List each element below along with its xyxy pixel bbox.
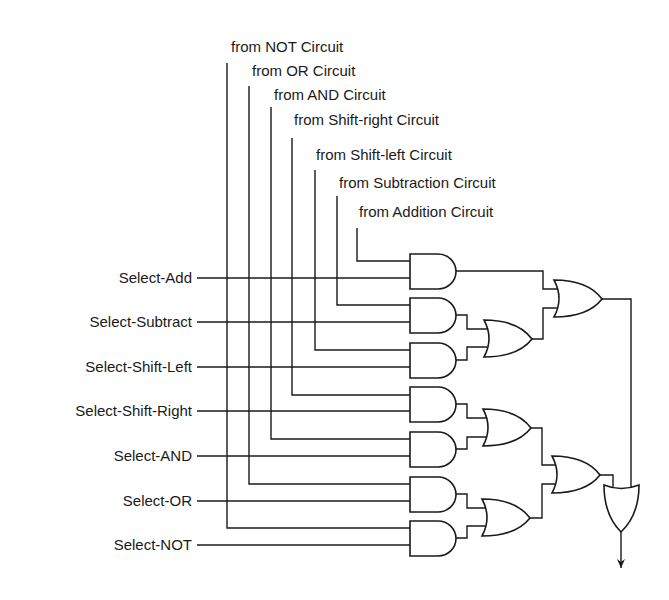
select-label-shift-left: Select-Shift-Left	[85, 358, 193, 375]
select-labels: Select-Add Select-Subtract Select-Shift-…	[75, 269, 193, 553]
or-gate-shr-and	[483, 409, 531, 446]
wire-and-shift-left-out	[456, 347, 487, 360]
mux-circuit-diagram: from NOT Circuit from OR Circuit from AN…	[0, 0, 669, 600]
source-label-or: from OR Circuit	[252, 62, 356, 79]
or-gate-top	[554, 280, 602, 317]
wire-and-subtract-out	[456, 315, 487, 329]
select-label-or: Select-OR	[123, 492, 192, 509]
and-gate-and	[410, 432, 456, 467]
and-gate-or	[410, 477, 456, 512]
source-label-shift-right: from Shift-right Circuit	[294, 111, 440, 128]
and-gate-shift-left	[410, 343, 456, 378]
or-gate-sub-shl	[484, 320, 532, 357]
select-label-not: Select-NOT	[114, 536, 192, 553]
and-gates	[410, 254, 456, 556]
wire-from-not	[227, 63, 410, 528]
wire-or-shr-and-out	[531, 428, 555, 465]
select-label-subtract: Select-Subtract	[89, 313, 192, 330]
source-label-subtraction: from Subtraction Circuit	[339, 174, 497, 191]
select-label-and: Select-AND	[114, 447, 193, 464]
wire-and-or-out	[456, 494, 485, 508]
or-gate-bottom	[552, 456, 600, 493]
wire-from-addition	[357, 228, 410, 261]
wire-or-or-not-out	[530, 484, 555, 518]
select-label-add: Select-Add	[119, 269, 192, 286]
source-label-addition: from Addition Circuit	[359, 203, 494, 220]
source-label-shift-left: from Shift-left Circuit	[316, 146, 453, 163]
wire-and-not-out	[456, 526, 485, 538]
wire-from-shift-left	[315, 170, 410, 350]
source-label-not: from NOT Circuit	[231, 38, 344, 55]
and-gate-not	[410, 521, 456, 556]
and-gate-shift-right	[410, 387, 456, 422]
wire-or-top-out	[602, 299, 631, 487]
or-gate-final	[604, 485, 639, 532]
wire-and-add-out	[456, 271, 557, 289]
wire-or-sub-shl-out	[532, 308, 557, 339]
and-gate-subtract	[410, 298, 456, 333]
source-label-and: from AND Circuit	[274, 86, 387, 103]
select-wires	[197, 278, 410, 545]
wire-and-shift-right-out	[456, 404, 486, 418]
source-wires	[227, 63, 410, 528]
or-gate-or-not	[482, 499, 530, 536]
select-label-shift-right: Select-Shift-Right	[75, 402, 193, 419]
and-gate-add	[410, 254, 456, 289]
wire-and-and-out	[456, 437, 486, 449]
